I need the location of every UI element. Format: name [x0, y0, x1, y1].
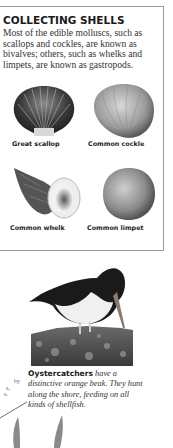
limpet-shell-image — [99, 166, 159, 222]
shell-item-common-limpet: Common limpet — [87, 166, 161, 234]
whelk-shell-image — [10, 166, 84, 222]
shell-item-common-cockle: Common cockle — [88, 82, 160, 148]
photo-caption: Oystercatchers have a distinctive orange… — [28, 369, 146, 411]
fragment-line: s. — [0, 391, 20, 398]
caption-subject: Oystercatchers — [28, 369, 93, 378]
shell-label: Great scallop — [12, 140, 60, 148]
shell-label: Common whelk — [10, 224, 65, 232]
oystercatcher-image — [27, 258, 139, 366]
partial-illustration — [0, 415, 100, 448]
shell-label: Common limpet — [87, 224, 144, 232]
shell-item-common-whelk: Common whelk — [10, 166, 84, 234]
panel-title: COLLECTING SHELLS — [3, 14, 125, 26]
scallop-shell-image — [10, 84, 78, 140]
panel-intro-text: Most of the edible molluscs, such as sca… — [3, 28, 163, 70]
oystercatcher-photo — [27, 258, 139, 366]
adjacent-column-fragment: by s, s. — [0, 378, 20, 398]
shell-label: Common cockle — [88, 140, 144, 148]
cockle-shell-image — [88, 82, 158, 140]
shell-item-great-scallop: Great scallop — [10, 84, 78, 148]
